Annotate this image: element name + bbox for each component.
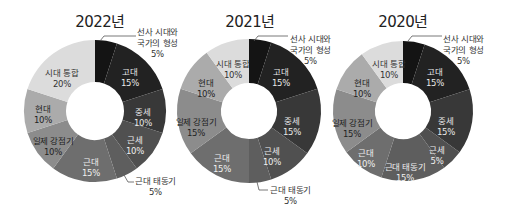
segment-label: 일제 강점기10% [33, 136, 74, 157]
outer-segment-label: 근대 태동기5% [270, 185, 311, 207]
leader-line [100, 36, 136, 41]
segment-label: 근세10% [126, 135, 144, 156]
segment-label: 근대 태동기15% [385, 162, 426, 183]
donut-charts [0, 0, 507, 215]
segment-label: 근대15% [213, 153, 231, 174]
segment-label: 중세15% [283, 116, 301, 137]
segment-label: 현대10% [34, 104, 52, 125]
segment-label: 고대15% [121, 67, 139, 88]
segment-label: 현대10% [353, 78, 371, 99]
outer-segment-label: 선사 시대와국가의 형성5% [443, 34, 484, 67]
segment-label: 근대15% [82, 157, 100, 178]
segment-label: 시대 통합10% [372, 59, 405, 80]
leader-line [408, 36, 442, 41]
segment-label: 일제 강점기15% [332, 118, 373, 139]
leader-line [257, 182, 268, 190]
segment-label: 근세10% [263, 146, 281, 167]
segment-label: 근세5% [429, 145, 444, 166]
segment-label: 고대15% [426, 67, 444, 88]
segment-label: 시대 통합20% [45, 68, 78, 89]
outer-segment-label: 선사 시대와국가의 형성5% [290, 34, 331, 67]
segment-label: 현대10% [197, 78, 215, 99]
segment-label: 중세15% [437, 116, 455, 137]
outer-segment-label: 선사 시대와국가의 형성5% [137, 27, 178, 60]
leader-line [124, 175, 134, 182]
segment-label: 근대10% [357, 148, 375, 169]
segment-label: 일제 강점기15% [176, 117, 217, 138]
segment-label: 시대 통합10% [216, 59, 249, 80]
segment-label: 중세10% [134, 107, 152, 128]
segment-label: 고대15% [272, 67, 290, 88]
outer-segment-label: 근대 태동기5% [135, 176, 176, 198]
